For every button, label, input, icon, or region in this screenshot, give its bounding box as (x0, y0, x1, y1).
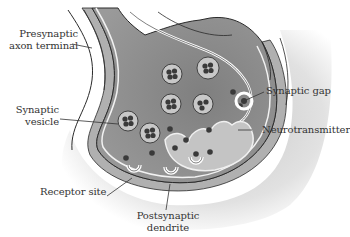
vesicle (140, 123, 160, 143)
label-neurotransmitter: Neurotransmitter (262, 124, 350, 136)
label-presynaptic-line2: axon terminal (2, 40, 78, 52)
vesicle (197, 57, 219, 79)
label-postsynaptic-line2: dendrite (128, 222, 208, 234)
label-synaptic-gap: Synaptic gap (266, 85, 331, 97)
label-synaptic-gap-text: Synaptic gap (266, 85, 331, 96)
label-receptor-site: Receptor site (40, 186, 106, 198)
vesicle (162, 64, 182, 84)
label-vesicle-line1: Synaptic (2, 104, 59, 116)
label-presynaptic-axon-terminal: Presynaptic axon terminal (2, 28, 78, 52)
label-presynaptic-line1: Presynaptic (2, 28, 78, 40)
label-synaptic-vesicle: Synaptic vesicle (2, 104, 59, 128)
vesicle (161, 94, 181, 114)
label-vesicle-line2: vesicle (2, 116, 59, 128)
vesicle (118, 111, 138, 131)
label-postsynaptic-line1: Postsynaptic (128, 210, 208, 222)
fusing-vesicle (193, 94, 213, 114)
label-postsynaptic-dendrite: Postsynaptic dendrite (128, 210, 208, 234)
label-neurotransmitter-text: Neurotransmitter (262, 124, 350, 135)
label-receptor-site-text: Receptor site (40, 186, 106, 197)
